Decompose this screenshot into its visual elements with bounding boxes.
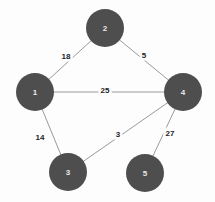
graph-edge-weight-1-3: 14 — [33, 132, 46, 143]
graph-node-1[interactable]: 1 — [16, 73, 54, 111]
graph-node-label-3: 3 — [66, 168, 71, 177]
graph-node-2[interactable]: 2 — [86, 9, 124, 47]
graph-node-5[interactable]: 5 — [126, 154, 164, 192]
graph-diagram: 12345 1852514327 — [0, 0, 215, 202]
graph-edge-weight-3-4: 3 — [114, 129, 122, 140]
edge-weight-label: 18 — [62, 52, 71, 61]
edge-weight-label: 25 — [101, 86, 110, 95]
graph-node-label-1: 1 — [33, 88, 38, 97]
graph-svg-canvas: 12345 1852514327 — [0, 0, 215, 202]
edges-layer — [35, 28, 183, 173]
graph-edge-weight-1-2: 18 — [59, 51, 72, 62]
nodes-layer: 12345 — [16, 9, 202, 192]
graph-node-label-4: 4 — [181, 88, 186, 97]
edge-weight-label: 14 — [36, 133, 45, 142]
edge-weight-label: 5 — [142, 51, 147, 60]
graph-node-3[interactable]: 3 — [49, 153, 87, 191]
graph-node-label-2: 2 — [103, 24, 108, 33]
graph-node-4[interactable]: 4 — [164, 73, 202, 111]
graph-edge-weight-4-5: 27 — [163, 128, 176, 139]
graph-edge-weight-1-4: 25 — [98, 85, 111, 96]
graph-node-label-5: 5 — [143, 169, 148, 178]
graph-edge-weight-2-4: 5 — [140, 50, 148, 61]
edge-weight-label: 3 — [116, 130, 121, 139]
edge-weight-label: 27 — [166, 129, 175, 138]
edge-labels-layer: 1852514327 — [33, 50, 176, 143]
